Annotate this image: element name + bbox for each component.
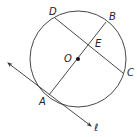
label-A: A (38, 96, 46, 107)
tangent-line-l (8, 63, 91, 126)
center-point-O (76, 57, 80, 61)
label-C: C (127, 67, 134, 78)
label-l: ℓ (94, 122, 98, 133)
circle-diagram: D B E O C A ℓ (0, 0, 137, 137)
label-B: B (109, 11, 116, 22)
label-D: D (49, 6, 57, 17)
label-O: O (64, 53, 72, 64)
label-E: E (95, 38, 102, 49)
